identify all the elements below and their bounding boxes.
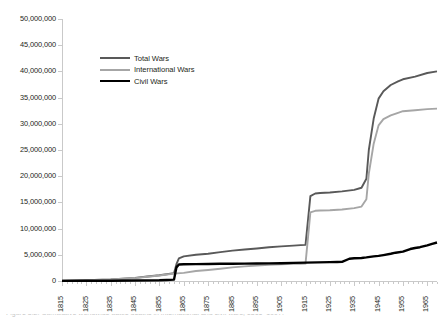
- chart-figure: 05,000,00010,000,00015,000,00020,000,000…: [0, 0, 448, 321]
- figure-caption-clipped: Figure 3.2. Cumulative worldwide battle …: [6, 314, 442, 321]
- series-line-total-wars: [62, 71, 437, 280]
- legend-label: International Wars: [134, 65, 194, 74]
- legend-item: Total Wars: [100, 53, 194, 63]
- series-layer: [0, 0, 448, 321]
- legend-item: International Wars: [100, 65, 194, 75]
- legend-swatch-line-icon: [100, 69, 130, 71]
- legend-swatch-line-icon: [100, 80, 130, 82]
- legend-swatch-line-icon: [100, 57, 130, 59]
- chart-legend: Total WarsInternational WarsCivil Wars: [100, 53, 194, 86]
- legend-label: Total Wars: [134, 54, 169, 63]
- legend-item: Civil Wars: [100, 76, 194, 86]
- figure-caption-text: Figure 3.2. Cumulative worldwide battle …: [6, 314, 442, 316]
- legend-label: Civil Wars: [134, 77, 167, 86]
